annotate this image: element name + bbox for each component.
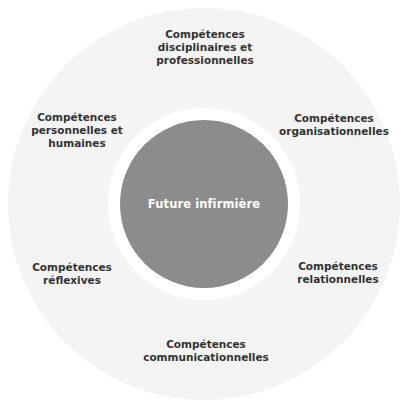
label-disciplinary-professional: Compétences disciplinaires et profession… — [156, 28, 254, 67]
label-personal-human: Compétences personnelles et humaines — [31, 111, 123, 150]
label-reflexive: Compétences réflexives — [32, 261, 112, 287]
label-organisational: Compétences organisationnelles — [279, 112, 389, 138]
label-communicational: Compétences communicationnelles — [143, 338, 269, 364]
label-relational: Compétences relationnelles — [297, 260, 378, 286]
competency-diagram: Future infirmière Compétences disciplina… — [0, 0, 408, 415]
center-label: Future infirmière — [148, 197, 260, 211]
center-circle: Future infirmière — [120, 120, 288, 288]
